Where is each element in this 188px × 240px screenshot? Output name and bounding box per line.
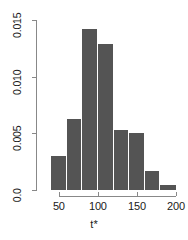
x-axis-line [59,196,176,197]
x-axis: 50100150200 t* [0,0,188,240]
x-axis-tick [137,192,138,196]
x-axis-tick [98,192,99,196]
x-axis-tick-label: 200 [167,201,185,212]
x-axis-tick-label: 50 [53,201,65,212]
x-axis-end-tick [176,192,177,196]
x-axis-title: t* [0,219,188,230]
x-axis-tick-label: 150 [128,201,146,212]
histogram-figure: 0.00.0050.0100.015 50100150200 t* [0,0,188,240]
x-axis-end-tick [59,192,60,196]
x-axis-tick-label: 100 [89,201,107,212]
